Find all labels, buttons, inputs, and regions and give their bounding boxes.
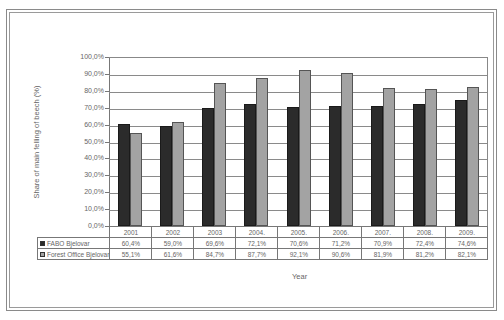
data-value: 81,2% <box>404 249 446 260</box>
data-value: 61,6% <box>152 249 194 260</box>
data-value: 92,1% <box>278 249 320 260</box>
y-tick-label: 30,0% <box>84 171 104 178</box>
bar-fabo-2004 <box>244 104 256 226</box>
bar-forest-office-2005 <box>299 70 311 226</box>
data-value: 71,2% <box>320 238 362 249</box>
bar-forest-office-2001 <box>130 133 142 226</box>
data-table-row: Forest Office Bjelovar55,1%61,6%84,7%87,… <box>38 249 488 260</box>
data-value: 72,1% <box>236 238 278 249</box>
category-label: 2005. <box>278 227 320 238</box>
category-label: 2001 <box>110 227 152 238</box>
category-label: 2009. <box>446 227 488 238</box>
bar-forest-office-2003 <box>214 83 226 226</box>
data-table-corner <box>38 227 110 238</box>
bar-fabo-2007 <box>371 106 383 226</box>
bar-fabo-2006 <box>329 106 341 226</box>
plot-area <box>109 57 488 226</box>
y-tick-label: 40,0% <box>84 154 104 161</box>
category-label: 2004. <box>236 227 278 238</box>
bar-forest-office-2008 <box>425 89 437 226</box>
data-value: 70,6% <box>278 238 320 249</box>
data-value: 60,4% <box>110 238 152 249</box>
series-name: FABO Bjelovar <box>47 240 90 247</box>
data-table-header-row: 2001200220032004.2005.2006.2007.2008.200… <box>38 227 488 238</box>
bar-fabo-2005 <box>287 107 299 226</box>
data-table: 2001200220032004.2005.2006.2007.2008.200… <box>37 226 488 260</box>
y-tick-label: 90,0% <box>84 70 104 77</box>
y-tick-label: 10,0% <box>84 205 104 212</box>
data-value: 81,9% <box>362 249 404 260</box>
bar-fabo-2001 <box>118 124 130 226</box>
y-tick-label: 100,0% <box>80 53 104 60</box>
y-axis-title: Share of main felling of beech (%) <box>32 86 41 199</box>
category-label: 2002 <box>152 227 194 238</box>
legend-key-icon <box>40 241 45 246</box>
data-value: 70,9% <box>362 238 404 249</box>
data-value: 72,4% <box>404 238 446 249</box>
bar-forest-office-2009 <box>467 87 479 226</box>
bar-fabo-2002 <box>160 126 172 226</box>
series-name: Forest Office Bjelovar <box>47 251 109 258</box>
data-value: 84,7% <box>194 249 236 260</box>
legend-cell: FABO Bjelovar <box>38 238 110 249</box>
legend-cell: Forest Office Bjelovar <box>38 249 110 260</box>
bar-forest-office-2004 <box>256 78 268 226</box>
data-value: 59,0% <box>152 238 194 249</box>
y-tick-label: 20,0% <box>84 188 104 195</box>
category-label: 2003 <box>194 227 236 238</box>
category-label: 2008. <box>404 227 446 238</box>
data-value: 55,1% <box>110 249 152 260</box>
x-axis-title: Year <box>292 272 307 281</box>
y-tick-label: 70,0% <box>84 104 104 111</box>
data-value: 69,6% <box>194 238 236 249</box>
data-table-row: FABO Bjelovar60,4%59,0%69,6%72,1%70,6%71… <box>38 238 488 249</box>
y-tick-label: 50,0% <box>84 138 104 145</box>
legend-key-icon <box>40 252 45 257</box>
data-value: 74,6% <box>446 238 488 249</box>
bar-forest-office-2007 <box>383 88 395 226</box>
data-value: 82,1% <box>446 249 488 260</box>
category-label: 2006. <box>320 227 362 238</box>
y-tick-label: 80,0% <box>84 87 104 94</box>
bar-forest-office-2002 <box>172 122 184 226</box>
y-tick-label: 60,0% <box>84 121 104 128</box>
category-label: 2007. <box>362 227 404 238</box>
data-value: 90,6% <box>320 249 362 260</box>
bar-forest-office-2006 <box>341 73 353 226</box>
bar-fabo-2008 <box>413 104 425 226</box>
data-value: 87,7% <box>236 249 278 260</box>
bar-fabo-2003 <box>202 108 214 226</box>
bar-fabo-2009 <box>455 100 467 226</box>
